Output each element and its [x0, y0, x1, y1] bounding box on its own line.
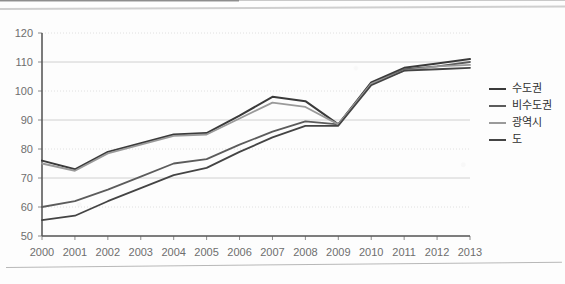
y-tick-label: 70 [21, 172, 33, 184]
y-tick-label: 50 [21, 230, 33, 242]
y-tick-label: 110 [15, 56, 33, 68]
x-tick-label: 2007 [260, 246, 284, 258]
x-tick-label: 2003 [129, 246, 153, 258]
x-tick-label: 2013 [458, 246, 482, 258]
legend-swatch-gwangyeoksi [489, 122, 506, 124]
x-tick-label: 2011 [392, 246, 416, 258]
x-tick-label: 2002 [96, 246, 120, 258]
series-line-2 [42, 65, 470, 171]
axes [42, 33, 470, 236]
x-tick-label: 2009 [326, 246, 350, 258]
legend-item-bisudogwon[interactable]: 비수도권 [489, 97, 561, 114]
chart-figure: 5060708090100110120 20002001200220032004… [0, 0, 565, 284]
series-line-1 [42, 62, 470, 207]
y-axis-ticks: 5060708090100110120 [15, 27, 42, 242]
x-tick-label: 2001 [63, 246, 87, 258]
x-axis-ticks: 2000200120022003200420052006200720082009… [30, 236, 482, 258]
line-chart-plot: 5060708090100110120 20002001200220032004… [0, 0, 565, 284]
series-line-0 [42, 59, 470, 169]
gridlines [42, 33, 470, 236]
x-tick-label: 2006 [227, 246, 251, 258]
chart-legend: 수도권 비수도권 광역시 도 [489, 80, 561, 148]
legend-label-gwangyeoksi: 광역시 [512, 117, 542, 128]
x-tick-label: 2005 [194, 246, 218, 258]
y-tick-label: 120 [15, 27, 33, 39]
legend-label-bisudogwon: 비수도권 [512, 100, 552, 111]
legend-swatch-do [489, 139, 506, 141]
legend-item-do[interactable]: 도 [489, 131, 561, 148]
data-series [42, 59, 470, 220]
y-tick-label: 100 [15, 85, 33, 97]
legend-item-sudogwon[interactable]: 수도권 [489, 80, 561, 97]
x-tick-label: 2004 [161, 246, 185, 258]
y-tick-label: 90 [21, 114, 33, 126]
x-tick-label: 2008 [293, 246, 317, 258]
y-tick-label: 60 [21, 201, 33, 213]
x-tick-label: 2010 [359, 246, 383, 258]
legend-swatch-sudogwon [489, 88, 506, 90]
legend-item-gwangyeoksi[interactable]: 광역시 [489, 114, 561, 131]
legend-swatch-bisudogwon [489, 105, 506, 107]
legend-label-sudogwon: 수도권 [512, 83, 542, 94]
legend-label-do: 도 [512, 134, 522, 145]
x-tick-label: 2012 [425, 246, 449, 258]
y-tick-label: 80 [21, 143, 33, 155]
x-tick-label: 2000 [30, 246, 54, 258]
